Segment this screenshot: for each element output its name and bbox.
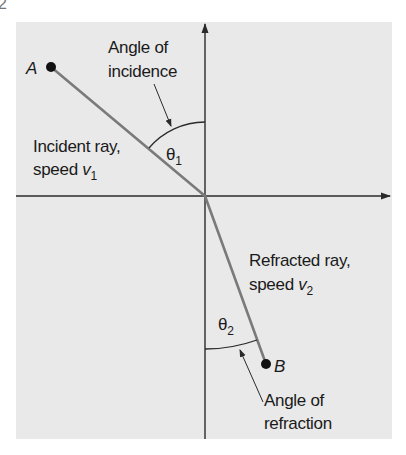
refraction-title-line1: Angle of: [264, 391, 325, 410]
point-a-label: A: [25, 59, 37, 78]
refraction-title-line2: refraction: [264, 414, 332, 433]
point-b-dot: [261, 359, 271, 369]
point-a-dot: [46, 62, 56, 72]
incidence-title-line1: Angle of: [108, 38, 169, 57]
refracted-ray-line1: Refracted ray,: [249, 251, 350, 270]
incident-ray-line1: Incident ray,: [33, 137, 120, 156]
refraction-diagram: 2 A B Angle of incidence θ1 Incident ray…: [0, 0, 406, 455]
figure-number-fragment: 2: [0, 0, 7, 12]
incidence-title-line2: incidence: [108, 62, 177, 81]
point-b-label: B: [274, 357, 285, 376]
